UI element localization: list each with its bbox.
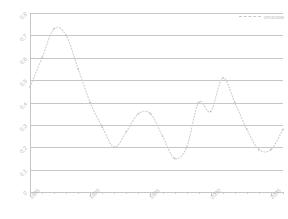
legend-item-label: vmsnow bbox=[264, 14, 284, 20]
series-line bbox=[30, 27, 283, 159]
y-tick-label: 0,6 bbox=[5, 56, 28, 79]
plot-area bbox=[30, 13, 283, 192]
legend-line-swatch-icon bbox=[239, 16, 261, 18]
y-tick-label: 0 bbox=[5, 190, 28, 213]
data-point bbox=[65, 34, 67, 36]
x-tick bbox=[138, 192, 139, 194]
data-point bbox=[246, 128, 248, 130]
x-tick bbox=[175, 192, 176, 194]
x-tick bbox=[42, 192, 43, 194]
y-tick-label: 0,4 bbox=[5, 100, 28, 123]
data-point bbox=[138, 113, 140, 115]
chart-legend: vmsnow bbox=[239, 14, 284, 20]
data-point bbox=[198, 102, 200, 104]
x-tick bbox=[163, 192, 164, 194]
x-tick bbox=[102, 192, 103, 194]
x-tick bbox=[54, 192, 55, 194]
data-point bbox=[174, 158, 176, 160]
y-tick-label: 0,3 bbox=[5, 123, 28, 146]
data-point bbox=[53, 28, 55, 30]
x-tick bbox=[187, 192, 188, 194]
y-tick-label: 0,7 bbox=[5, 33, 28, 56]
y-tick-label: 0,2 bbox=[5, 145, 28, 168]
x-tick bbox=[283, 192, 284, 194]
data-point bbox=[77, 68, 79, 70]
x-tick bbox=[223, 192, 224, 194]
x-tick bbox=[66, 192, 67, 194]
x-tick bbox=[78, 192, 79, 194]
x-tick bbox=[114, 192, 115, 194]
data-point bbox=[186, 146, 188, 148]
series-vmsnow bbox=[30, 13, 283, 192]
data-point bbox=[150, 113, 152, 115]
chart-container: 00,10,20,30,40,50,60,70,8 19851990199520… bbox=[0, 0, 288, 219]
y-tick-label: 0,8 bbox=[5, 11, 28, 34]
data-point bbox=[162, 135, 164, 137]
data-point bbox=[29, 86, 31, 88]
data-point bbox=[113, 146, 115, 148]
data-point bbox=[210, 111, 212, 113]
data-point bbox=[89, 102, 91, 104]
data-point bbox=[282, 128, 284, 130]
data-point bbox=[258, 149, 260, 151]
y-tick-label: 0,5 bbox=[5, 78, 28, 101]
x-tick bbox=[259, 192, 260, 194]
data-point bbox=[125, 131, 127, 133]
data-point bbox=[41, 57, 43, 59]
data-point bbox=[222, 77, 224, 79]
x-tick bbox=[235, 192, 236, 194]
x-tick bbox=[126, 192, 127, 194]
x-tick bbox=[247, 192, 248, 194]
data-point bbox=[101, 126, 103, 128]
y-tick-label: 0,1 bbox=[5, 168, 28, 191]
x-tick bbox=[199, 192, 200, 194]
data-point bbox=[234, 102, 236, 104]
data-point bbox=[270, 149, 272, 151]
